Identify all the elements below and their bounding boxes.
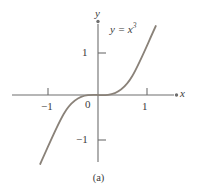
y-axis-arrow-icon (96, 20, 99, 23)
plot-canvas (0, 0, 197, 193)
x-tick-label-neg1: −1 (41, 101, 53, 112)
y-tick-label-1: 1 (82, 47, 88, 58)
figure-caption: (a) (0, 172, 197, 183)
curve-equation-label: y = x3 (110, 24, 136, 35)
curve-equation-base: y = x (110, 23, 133, 35)
curve-equation-exponent: 3 (133, 21, 137, 30)
figure-cubic-graph: y x y = x3 −1 1 1 −1 0 (a) (0, 0, 197, 193)
x-axis-label: x (180, 88, 185, 99)
x-tick-label-1: 1 (142, 101, 148, 112)
y-axis-label: y (95, 8, 100, 19)
x-axis-arrow-icon (175, 93, 178, 96)
origin-label: 0 (85, 99, 91, 110)
y-tick-label-neg1: −1 (76, 134, 88, 145)
